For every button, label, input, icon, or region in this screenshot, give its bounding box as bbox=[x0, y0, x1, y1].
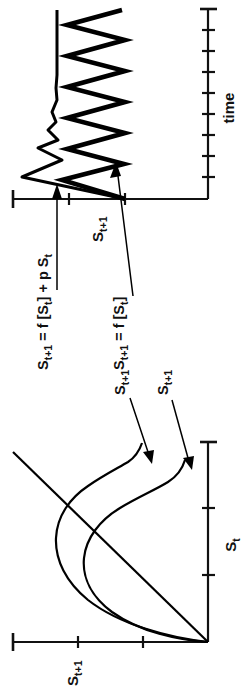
return-map-panel: St St+1 St+1 bbox=[13, 370, 242, 686]
time-axis bbox=[200, 9, 217, 199]
leader-map-upper-arrowhead bbox=[143, 450, 154, 464]
annotation-map-lower-label: St+1 bbox=[155, 370, 174, 395]
annotation-map-lower-sub: t+1 bbox=[162, 370, 174, 386]
st1-axis-label-lower: St+1 bbox=[64, 660, 84, 686]
leader-map-upper-line bbox=[130, 398, 148, 452]
st1-axis-label-lower-sub: t+1 bbox=[72, 660, 84, 676]
annotation-damped-sub3: t bbox=[42, 254, 54, 258]
annotation-damped-s: S bbox=[35, 360, 51, 370]
annotation-map-lower-s: S bbox=[155, 385, 171, 395]
leader-map-upper bbox=[130, 398, 154, 464]
st1-axis-lower bbox=[13, 633, 208, 651]
figure-root: time St+1 = f [St] + p St St+1 = f [S bbox=[0, 0, 249, 691]
annotation-osc-tail: ] bbox=[111, 296, 127, 301]
st1-axis-label-upper: St+1 bbox=[89, 216, 109, 242]
annotation-damped-label: St+1 = f [St] + p St bbox=[35, 254, 54, 370]
figure-svg: time St+1 = f [St] + p St St+1 = f [S bbox=[0, 0, 249, 691]
annotation-oscillating-label: St+1 = f [St] bbox=[111, 296, 130, 370]
leader-oscillating bbox=[110, 162, 133, 296]
leader-map-lower bbox=[172, 400, 194, 470]
st-axis-label-sub: t bbox=[230, 538, 242, 542]
map-curve-with-linear-term bbox=[56, 443, 208, 642]
time-series-panel: time St+1 = f [St] + p St St+1 = f [S bbox=[13, 9, 237, 370]
annotation-damped-sub1: t+1 bbox=[42, 345, 54, 361]
st-axis bbox=[200, 442, 217, 642]
st1-axis-label-lower-s: S bbox=[64, 676, 81, 686]
annotation-map-upper-sub: t+1 bbox=[119, 370, 131, 386]
annotation-osc-rest: = f [S bbox=[111, 305, 127, 345]
annotation-map-upper-label: St+1 bbox=[112, 370, 131, 395]
annotation-map-upper-s: S bbox=[112, 385, 128, 395]
st1-axis-label-upper-sub: t+1 bbox=[97, 216, 109, 232]
st-axis-label: St bbox=[222, 538, 242, 552]
leader-map-lower-line bbox=[172, 400, 188, 458]
st-axis-label-s: S bbox=[222, 542, 239, 552]
annotation-osc-sub1: t+1 bbox=[118, 345, 130, 361]
annotation-damped-rest: = f [S bbox=[35, 305, 51, 345]
annotation-damped-tail: ] + p S bbox=[35, 257, 51, 301]
annotation-osc-s: S bbox=[111, 360, 127, 370]
st1-axis-label-upper-s: S bbox=[89, 232, 106, 242]
map-curve-plain bbox=[84, 460, 208, 642]
time-axis-label: time bbox=[220, 93, 237, 124]
